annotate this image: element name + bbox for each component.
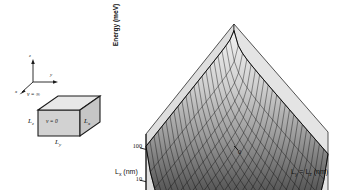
xaxis-title-unit: (nm) [121, 168, 137, 175]
ly-sub: y [59, 142, 61, 147]
box-edge-label-lz: Lz [28, 118, 34, 126]
potential-outside-label: v = ∞ [27, 92, 40, 98]
box-edge-label-ly: Ly [55, 139, 61, 147]
box-edge-label-lx: Lx [84, 118, 90, 126]
plot-svg [105, 0, 360, 190]
lx-sub: x [88, 121, 90, 126]
ztick-0: 100 [122, 143, 142, 149]
triad-z-label: z [29, 53, 31, 58]
lz-sub: z [32, 121, 34, 126]
ytick-2: 0 [238, 149, 241, 155]
box-front-face [38, 110, 80, 136]
figure-root: z y x v = ∞ v = 0 Lz Lx Ly Energy (meV) [0, 0, 360, 190]
potential-inside-label: v = 0 [46, 119, 58, 125]
xaxis-title: Lx (nm) [115, 168, 138, 177]
triad-x-label: x [15, 89, 17, 94]
zaxis-title: Energy (meV) [112, 0, 119, 60]
yaxis-title-unit: (nm) [312, 168, 328, 175]
triad-y-label: y [50, 72, 52, 77]
energy-surface-plot: Energy (meV) 1001010.10 [105, 0, 360, 190]
coordinate-triad [22, 62, 55, 92]
yaxis-title: Ly = Lz (nm) [291, 168, 328, 177]
